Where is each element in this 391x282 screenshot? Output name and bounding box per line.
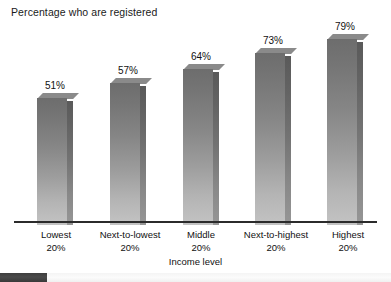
bar-front-face	[183, 69, 213, 225]
x-tick-label-line1: Next-to-highest	[244, 229, 308, 240]
bar-front-face	[37, 98, 67, 225]
bar-value-label: 51%	[36, 80, 74, 91]
bar-3d	[37, 98, 73, 225]
x-tick-label-line1: Highest	[332, 229, 364, 240]
bar-front-face	[327, 39, 357, 225]
bar-side-face	[357, 42, 363, 225]
bar-front-face	[110, 83, 140, 225]
x-tick-label-line1: Next-to-lowest	[100, 229, 161, 240]
x-axis-line	[14, 221, 377, 223]
x-axis-title: Income level	[0, 256, 391, 267]
bar-chart-figure: Percentage who are registered 51% 57% 64…	[0, 0, 391, 282]
bar-3d	[255, 53, 291, 225]
x-tick-label-line1: Middle	[187, 229, 215, 240]
bar-side-face	[213, 72, 219, 225]
bar-side-face	[140, 86, 146, 225]
x-tick-label-line2: 20%	[310, 241, 386, 254]
bar-3d	[110, 83, 146, 225]
bar-3d	[183, 69, 219, 225]
plot-area: 51% 57% 64%	[0, 0, 391, 225]
bar-side-face	[285, 56, 291, 225]
bar-value-label: 57%	[109, 65, 147, 76]
bar-side-face	[67, 101, 73, 225]
bar-value-label: 73%	[254, 35, 292, 46]
x-tick-label: Highest 20%	[310, 228, 386, 254]
scrollbar-thumb[interactable]	[0, 273, 47, 282]
horizontal-scrollbar[interactable]	[0, 273, 391, 282]
bar-value-label: 64%	[182, 51, 220, 62]
x-tick-label-line1: Lowest	[41, 229, 71, 240]
bar-front-face	[255, 53, 285, 225]
bar-value-label: 79%	[326, 21, 364, 32]
bar-3d	[327, 39, 363, 225]
